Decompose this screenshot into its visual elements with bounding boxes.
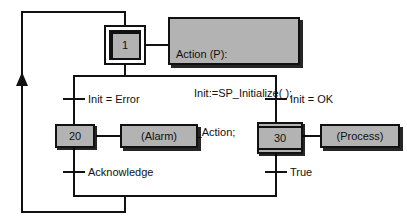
action-alarm-label: (Alarm) — [141, 130, 177, 142]
action-block-alarm[interactable]: (Alarm) — [120, 124, 198, 148]
action-block-initialize[interactable]: Action (P): Init:=SP_Initialize( ); End_… — [168, 17, 300, 65]
action-process-label: (Process) — [336, 130, 383, 142]
initial-step-1-label: 1 — [109, 30, 141, 60]
macro-step-30[interactable]: 30 — [257, 122, 303, 154]
macro-step-bar-bottom — [259, 148, 301, 150]
transition-label-acknowledge: Acknowledge — [88, 166, 153, 178]
macro-step-30-label: 30 — [274, 132, 286, 144]
transition-label-init-error: Init = Error — [88, 93, 140, 105]
sfc-diagram-canvas: 1 Action (P): Init:=SP_Initialize( ); En… — [0, 0, 407, 224]
transition-label-init-ok: Init = OK — [290, 93, 333, 105]
initial-step-1[interactable]: 1 — [104, 25, 146, 65]
up-arrow-icon — [16, 72, 28, 86]
action-code-line-2: Init:=SP_Initialize( ); — [176, 87, 292, 100]
step-20[interactable]: 20 — [55, 124, 95, 148]
step-20-label: 20 — [69, 130, 81, 142]
macro-step-bar-top — [259, 126, 301, 128]
action-block-process[interactable]: (Process) — [320, 124, 400, 148]
transition-label-true: True — [290, 166, 312, 178]
action-code-line-1: Action (P): — [176, 48, 292, 61]
